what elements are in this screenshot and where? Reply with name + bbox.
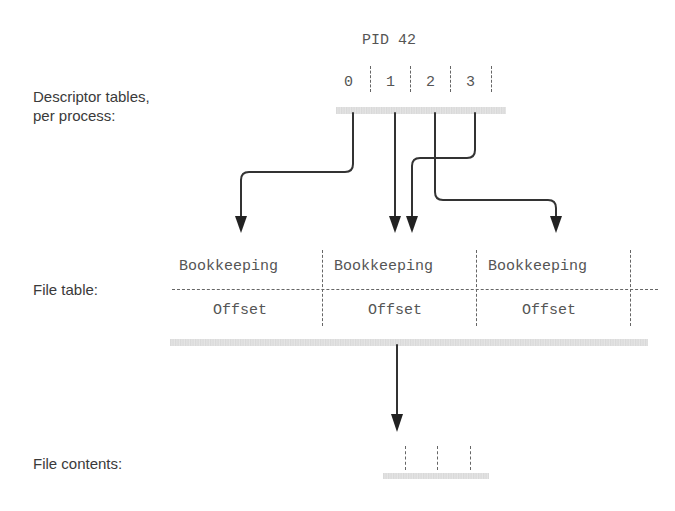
arrowhead-icon xyxy=(235,216,247,233)
arrow-fd3-to-entry1 xyxy=(412,113,475,218)
arrowhead-icon xyxy=(550,216,562,233)
arrow-fd0-to-entry0 xyxy=(241,113,353,218)
arrowhead-icon xyxy=(391,414,403,432)
arrowhead-icon xyxy=(389,216,401,233)
pointer-arrows xyxy=(0,0,675,511)
diagram-canvas: Descriptor tables, per process: File tab… xyxy=(0,0,675,511)
arrow-fd2-to-entry2 xyxy=(435,113,556,218)
arrowhead-icon xyxy=(406,216,418,233)
